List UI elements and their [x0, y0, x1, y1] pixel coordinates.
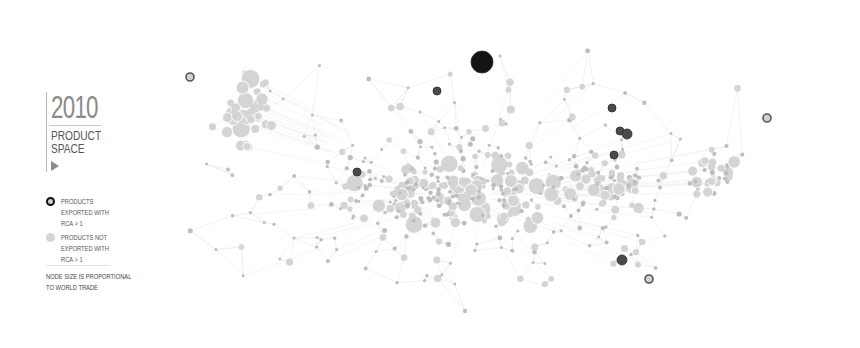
legend-label-exported: PRODUCTS EXPORTED WITH RCA > 1	[61, 196, 133, 229]
network-nodes	[188, 48, 745, 313]
chart-title: PRODUCT SPACE	[51, 129, 121, 155]
year-label: 2010	[51, 92, 98, 124]
play-icon[interactable]	[51, 161, 59, 171]
title-divider-horizontal	[49, 125, 101, 126]
non-rca-dot-icon	[46, 233, 55, 242]
legend-divider	[46, 265, 110, 266]
product-space-network	[0, 0, 860, 348]
rca-ring-icon	[46, 197, 55, 206]
legend-note: NODE SIZE IS PROPORTIONAL TO WORLD TRADE	[46, 271, 140, 293]
legend-label-not-exported: PRODUCTS NOT EXPORTED WITH RCA > 1	[61, 232, 133, 265]
title-divider-vertical	[46, 92, 47, 172]
